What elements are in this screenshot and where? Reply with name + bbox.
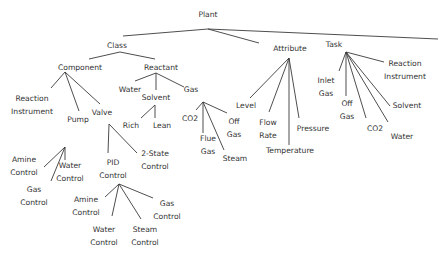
node-label-line: Pump: [67, 115, 89, 124]
node-label-line: Task: [325, 40, 343, 49]
node-label-line: Steam: [133, 225, 158, 234]
node-steam-control: SteamControl: [131, 225, 158, 247]
node-label-line: Control: [141, 162, 168, 171]
node-reaction-instrument-c: ReactionInstrument: [11, 94, 53, 116]
node-solvent-r: Solvent: [142, 93, 171, 102]
node-off-gas-g: OffGas: [227, 117, 242, 139]
node-reactant: Reactant: [144, 63, 178, 72]
node-two-state-control: 2-StateControl: [141, 149, 169, 171]
tree-edge: [112, 184, 119, 216]
node-label-line: Control: [153, 212, 180, 221]
node-off-gas-t: OffGas: [340, 99, 355, 121]
node-task: Task: [325, 40, 343, 49]
tree-edge: [119, 184, 153, 198]
node-gas-control-p: GasControl: [20, 185, 47, 207]
node-label-line: Gas: [160, 199, 175, 208]
node-water-control-p: WaterControl: [56, 161, 83, 183]
node-label-line: Class: [107, 41, 127, 50]
node-flue-gas: FlueGas: [200, 134, 216, 156]
node-label-line: Solvent: [142, 93, 171, 102]
node-label-line: Reaction: [389, 59, 422, 68]
node-temperature: Temperature: [265, 146, 314, 155]
tree-edge: [89, 52, 120, 59]
node-label-line: Flow: [259, 118, 276, 127]
node-label-line: Control: [10, 168, 37, 177]
node-label-line: PID: [107, 158, 120, 167]
node-label-line: Reactant: [144, 63, 178, 72]
tree-edge: [339, 52, 346, 71]
node-label-line: Water: [59, 161, 82, 170]
node-label-line: Solvent: [393, 101, 422, 110]
tree-edge: [346, 52, 366, 118]
node-water-r: Water: [119, 85, 142, 94]
node-plant: Plant: [198, 10, 217, 19]
node-label-line: Off: [341, 99, 353, 108]
node-label-line: Control: [131, 238, 158, 247]
node-label-line: Control: [99, 171, 126, 180]
node-label-line: Control: [20, 198, 47, 207]
node-label-line: Control: [56, 174, 83, 183]
tree-edge: [346, 52, 384, 62]
node-label-line: Flue: [200, 134, 216, 143]
node-label-line: Rate: [259, 131, 277, 140]
node-flow-rate: FlowRate: [259, 118, 277, 140]
node-water-t: Water: [391, 132, 414, 141]
node-amine-control-p: AmineControl: [10, 155, 37, 177]
node-solvent-t: Solvent: [393, 101, 422, 110]
node-label-line: Pressure: [297, 124, 330, 133]
node-reaction-instrument-t: ReactionInstrument: [384, 59, 426, 81]
node-label-line: Temperature: [265, 146, 314, 155]
node-label-line: Control: [72, 208, 99, 217]
node-label-line: Water: [119, 85, 142, 94]
node-class: Class: [107, 41, 127, 50]
node-inlet-gas: InletGas: [318, 76, 335, 98]
node-gas-r: Gas: [184, 85, 199, 94]
node-label-line: Instrument: [11, 107, 53, 116]
node-level: Level: [236, 101, 256, 110]
node-label-line: Off: [228, 117, 240, 126]
node-label-line: Water: [93, 225, 116, 234]
tree-edge: [156, 73, 184, 87]
node-label-line: CO2: [182, 114, 198, 123]
node-water-control-v: WaterControl: [90, 225, 117, 247]
node-label-line: Gas: [201, 147, 216, 156]
tree-edge: [120, 52, 155, 59]
tree-edge: [65, 72, 100, 104]
tree-edge: [119, 184, 141, 219]
node-label-line: Reaction: [16, 94, 49, 103]
tree-nodes: PlantClassAttributeTaskComponentReactant…: [10, 10, 426, 247]
node-steam-g: Steam: [223, 154, 248, 163]
node-label-line: Steam: [223, 154, 248, 163]
node-label-line: Gas: [340, 112, 355, 121]
node-label-line: Amine: [12, 155, 37, 164]
node-label-line: CO2: [367, 124, 383, 133]
node-label-line: Water: [391, 132, 414, 141]
node-gas-control-v: GasControl: [153, 199, 180, 221]
node-label-line: Gas: [27, 185, 42, 194]
tree-edge: [123, 29, 208, 36]
tree-edge: [141, 105, 155, 118]
node-label-line: Plant: [198, 10, 217, 19]
tree-diagram: PlantClassAttributeTaskComponentReactant…: [0, 0, 438, 260]
tree-edge: [250, 58, 289, 98]
node-co2-t: CO2: [367, 124, 383, 133]
node-pressure: Pressure: [297, 124, 330, 133]
node-attribute: Attribute: [273, 44, 307, 53]
node-rich: Rich: [123, 121, 140, 130]
tree-edge: [196, 102, 203, 110]
node-label-line: Rich: [123, 121, 140, 130]
tree-edge: [51, 72, 65, 88]
node-label-line: Lean: [153, 121, 171, 130]
node-label-line: Attribute: [273, 44, 307, 53]
node-amine-control-v: AmineControl: [72, 195, 99, 217]
node-label-line: Inlet: [318, 76, 335, 85]
node-label-line: Component: [58, 63, 102, 72]
tree-edge: [289, 58, 299, 118]
node-label-line: Level: [236, 101, 256, 110]
node-label-line: Control: [90, 238, 117, 247]
node-label-line: Gas: [184, 85, 199, 94]
node-label-line: Valve: [92, 108, 113, 117]
node-label-line: Gas: [319, 89, 334, 98]
node-lean: Lean: [153, 121, 171, 130]
tree-edge: [135, 73, 156, 81]
